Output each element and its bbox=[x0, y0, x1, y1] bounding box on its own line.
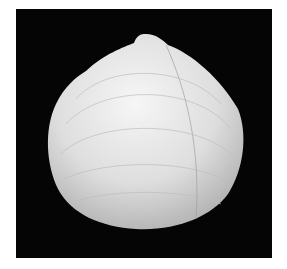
shell-image bbox=[16, 9, 272, 258]
photo-frame bbox=[16, 9, 272, 258]
shell-body bbox=[48, 34, 244, 229]
